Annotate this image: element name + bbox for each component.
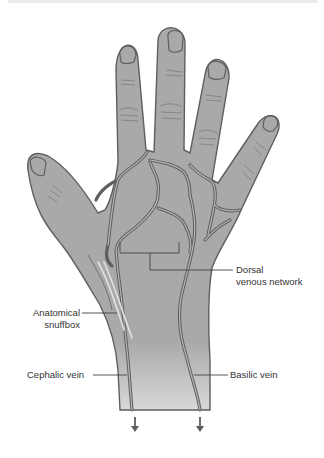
label-snuffbox-line1: Anatomical — [26, 307, 80, 319]
hand-outline — [28, 28, 279, 410]
flow-arrows — [131, 417, 204, 432]
label-dorsal-line2: venous network — [236, 276, 303, 288]
label-basilic-vein: Basilic vein — [230, 369, 278, 381]
label-dorsal-venous-network: Dorsal venous network — [236, 264, 303, 288]
label-cephalic-vein: Cephalic vein — [27, 369, 84, 381]
label-snuffbox-line2: snuffbox — [26, 319, 80, 331]
cephalic-flow-arrow — [131, 417, 139, 432]
hand-diagram — [0, 0, 324, 458]
label-anatomical-snuffbox: Anatomical snuffbox — [26, 307, 80, 331]
label-dorsal-line1: Dorsal — [236, 264, 303, 276]
basilic-flow-arrow — [196, 417, 204, 432]
